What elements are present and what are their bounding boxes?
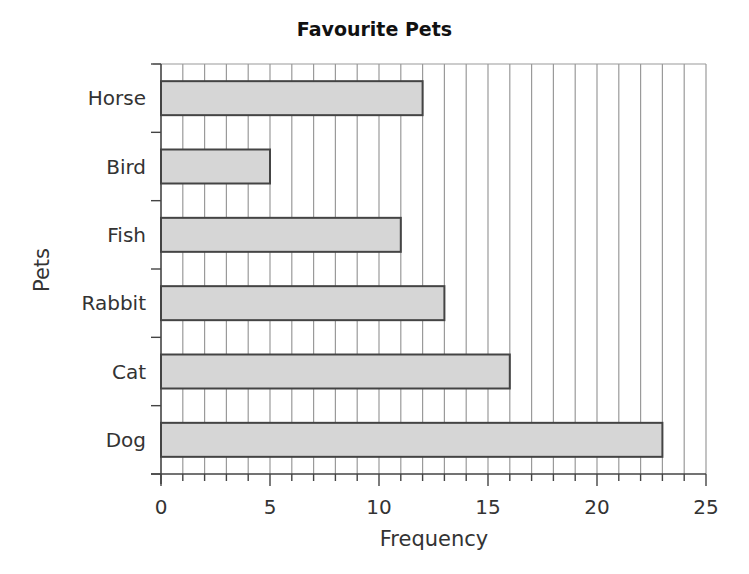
y-tick-label: Cat — [112, 360, 146, 384]
x-tick-label: 25 — [693, 495, 718, 519]
bar-rabbit — [161, 286, 444, 320]
y-tick-label: Rabbit — [81, 291, 146, 315]
x-tick-label: 0 — [155, 495, 168, 519]
x-tick-label: 15 — [475, 495, 500, 519]
y-tick-label: Bird — [106, 155, 146, 179]
y-tick-label: Dog — [106, 428, 146, 452]
bar-horse — [161, 81, 423, 115]
bar-dog — [161, 423, 662, 457]
bar-bird — [161, 150, 270, 184]
y-tick-label: Fish — [107, 223, 146, 247]
bar-fish — [161, 218, 401, 252]
bar-cat — [161, 355, 510, 389]
y-tick-label: Horse — [88, 86, 146, 110]
x-tick-label: 20 — [584, 495, 609, 519]
x-tick-label: 10 — [366, 495, 391, 519]
x-tick-label: 5 — [264, 495, 277, 519]
bar-chart: HorseBirdFishRabbitCatDog0510152025 — [0, 0, 749, 574]
